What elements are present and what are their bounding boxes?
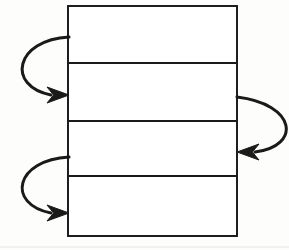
four-band-rectangle (68, 6, 237, 236)
feedback-loop-diagram (0, 0, 289, 250)
band-2 (68, 63, 237, 121)
band-3 (68, 121, 237, 176)
diagram-canvas (0, 0, 289, 250)
band-1 (68, 6, 237, 63)
band-4 (68, 176, 237, 236)
